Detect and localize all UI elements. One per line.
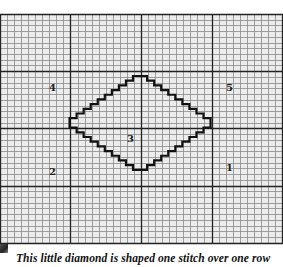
cross-stitch-diagram: 4 5 3 2 1 This little diamond is shaped … [0, 0, 283, 267]
figure-caption: This little diamond is shaped one stitch… [16, 252, 283, 264]
region-label-5: 5 [226, 83, 233, 93]
region-label-2: 2 [49, 167, 56, 177]
region-label-1: 1 [226, 163, 233, 173]
region-label-4: 4 [49, 83, 56, 93]
graph-paper-grid [0, 0, 283, 267]
region-label-3: 3 [127, 134, 134, 144]
page-corner-mark [0, 244, 8, 253]
